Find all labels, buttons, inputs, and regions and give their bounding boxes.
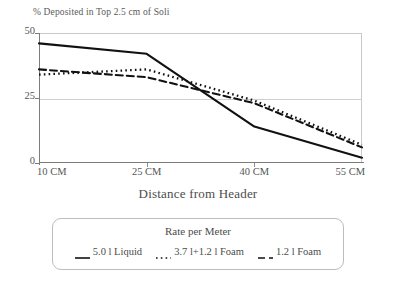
legend-item-1[interactable]: 3.7 l+1.2 l Foam [156,246,244,257]
legend-item-0[interactable]: 5.0 l Liquid [75,246,142,257]
legend: Rate per Meter 5.0 l Liquid3.7 l+1.2 l F… [52,218,344,270]
legend-item-2[interactable]: 1.2 l Foam [258,246,321,257]
y-tick-label: 25 [25,90,36,101]
y-axis-title: % Deposited in Top 2.5 cm of Soli [33,7,170,17]
legend-item-list: 5.0 l Liquid3.7 l+1.2 l Foam1.2 l Foam [53,246,343,257]
legend-label: 5.0 l Liquid [93,246,142,257]
legend-swatch-dotted-icon [156,248,171,256]
chart-container: % Deposited in Top 2.5 cm of Soli 50250 … [0,0,396,285]
series-line-1 [39,69,362,144]
y-tick-label: 0 [30,155,35,166]
series-line-0 [39,43,362,157]
series-lines [39,33,362,163]
legend-swatch-dashed-icon [258,248,273,256]
legend-swatch-solid-icon [75,248,90,256]
legend-label: 1.2 l Foam [276,246,321,257]
x-tick-label-10: 10 CM [37,166,66,177]
y-tick-mark [35,33,39,34]
x-tick-label-25: 25 CM [127,166,167,177]
legend-label: 3.7 l+1.2 l Foam [174,246,244,257]
x-tick-label-55: 55 CM [336,166,365,177]
y-tick-mark [35,98,39,99]
x-tick-mark-40 [254,163,255,167]
y-tick-mark [35,163,39,164]
x-tick-mark-25 [147,163,148,167]
x-axis-title: Distance from Header [0,186,396,202]
y-tick-label: 50 [25,25,36,36]
x-tick-label-40: 40 CM [234,166,274,177]
legend-title: Rate per Meter [53,225,343,237]
series-line-2 [39,69,362,147]
